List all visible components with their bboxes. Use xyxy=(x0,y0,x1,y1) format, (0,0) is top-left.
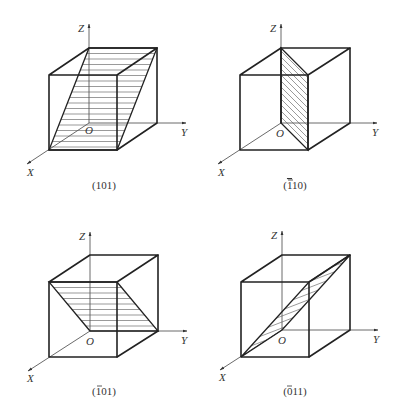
crystal-plane xyxy=(49,282,158,331)
x-axis xyxy=(27,123,89,164)
panel-0bar11: Z Y X O (011) xyxy=(218,229,381,398)
y-label: Y xyxy=(181,126,189,138)
x-axis xyxy=(218,123,281,164)
z-label: Z xyxy=(271,229,278,241)
z-label: Z xyxy=(78,22,85,34)
origin-label: O xyxy=(85,124,93,136)
origin-label: O xyxy=(278,334,286,346)
panel-101: Z Y X O (101) xyxy=(26,22,189,192)
cube-edges xyxy=(241,255,350,357)
y-label: Y xyxy=(373,333,381,345)
cube-edges xyxy=(49,255,158,357)
plane-hatching xyxy=(230,250,360,366)
z-label: Z xyxy=(270,22,277,34)
z-label: Z xyxy=(79,230,86,242)
caption-1bar01: (101) xyxy=(92,385,116,398)
crystal-plane xyxy=(281,48,308,150)
x-label: X xyxy=(26,372,35,384)
x-label: X xyxy=(218,371,227,383)
origin-label: O xyxy=(276,127,284,139)
x-label: X xyxy=(26,166,35,178)
caption-1bar10: (110) xyxy=(283,179,307,192)
x-axis xyxy=(28,331,90,371)
cube-edges xyxy=(49,48,157,150)
plane-hatching xyxy=(40,288,170,327)
y-label: Y xyxy=(181,334,189,346)
origin-label: O xyxy=(86,335,94,347)
miller-indices-figure: Z Y X O (101) xyxy=(0,0,403,418)
plane-hatching xyxy=(270,34,320,162)
caption-0bar11: (011) xyxy=(283,385,307,398)
caption-101: (101) xyxy=(92,179,116,192)
x-label: X xyxy=(217,166,226,178)
cube-edges xyxy=(240,48,350,150)
y-label: Y xyxy=(372,126,380,138)
panel-1bar01: Z Y X O (101) xyxy=(26,230,189,398)
panel-1bar10: Z Y X O (110) xyxy=(217,22,380,192)
